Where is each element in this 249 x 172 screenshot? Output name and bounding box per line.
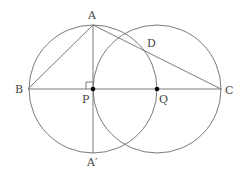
- segment-AC: [93, 25, 221, 89]
- label-D: D: [147, 37, 156, 50]
- point-P-dot: [91, 87, 96, 92]
- point-Q-dot: [155, 87, 160, 92]
- label-C: C: [225, 84, 233, 97]
- label-A: A: [87, 9, 97, 22]
- geometry-diagram: A B C D P Q A′: [0, 0, 249, 172]
- label-P: P: [82, 93, 90, 106]
- label-Q: Q: [159, 93, 168, 106]
- label-B: B: [15, 83, 23, 96]
- label-A-prime: A′: [86, 156, 98, 169]
